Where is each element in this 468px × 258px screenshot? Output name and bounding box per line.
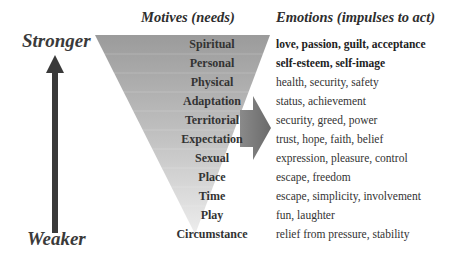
emotion-place: escape, freedom [276, 168, 351, 187]
weaker-label: Weaker [27, 228, 86, 250]
emotion-personal: self-esteem, self-image [276, 54, 385, 73]
emotion-sexual: expression, pleasure, control [276, 149, 408, 168]
emotion-adaptation: status, achievement [276, 92, 366, 111]
emotion-play: fun, laughter [276, 206, 335, 225]
emotion-circumstance: relief from pressure, stability [276, 225, 410, 244]
emotion-time: escape, simplicity, involvement [276, 187, 421, 206]
emotion-territorial: security, greed, power [276, 111, 377, 130]
strength-arrow-icon [46, 55, 64, 233]
emotion-spiritual: love, passion, guilt, acceptance [276, 35, 426, 54]
emotion-expectation: trust, hope, faith, belief [276, 130, 383, 149]
emotions-header: Emotions (impulses to act) [276, 9, 435, 26]
motives-header: Motives (needs) [141, 9, 235, 26]
emotion-physical: health, security, safety [276, 73, 379, 92]
stronger-label: Stronger [22, 30, 91, 52]
